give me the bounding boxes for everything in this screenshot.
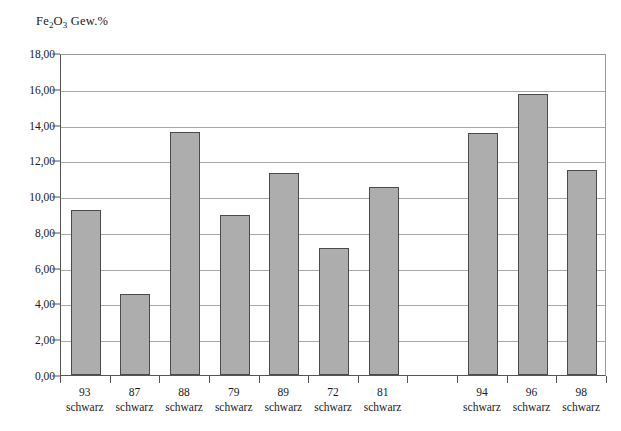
y-axis-tick-label: 0,00 xyxy=(0,370,55,382)
bar xyxy=(468,133,498,375)
y-axis-tick-mark xyxy=(52,89,60,90)
x-axis-label-name: schwarz xyxy=(347,400,419,415)
x-axis-tick-mark xyxy=(457,376,458,383)
x-axis-tick-label: 98schwarz xyxy=(545,385,617,414)
x-axis-label-number: 98 xyxy=(545,385,617,400)
y-axis-tick-mark xyxy=(52,54,60,55)
y-axis-tick-mark xyxy=(52,268,60,269)
bar xyxy=(319,248,349,375)
bar xyxy=(120,294,150,375)
y-axis-tick-label: 10,00 xyxy=(0,191,55,203)
x-axis-tick-mark xyxy=(507,376,508,383)
x-axis-tick-mark xyxy=(556,376,557,383)
y-axis-tick-label: 8,00 xyxy=(0,227,55,239)
y-axis-tick-label: 18,00 xyxy=(0,48,55,60)
y-axis-tick-mark xyxy=(52,304,60,305)
x-axis-tick-mark xyxy=(209,376,210,383)
x-axis-tick-mark xyxy=(358,376,359,383)
y-axis-tick-mark xyxy=(52,161,60,162)
y-axis-tick-mark xyxy=(52,376,60,377)
x-axis-tick-mark xyxy=(407,376,408,383)
x-axis-tick-mark xyxy=(308,376,309,383)
x-axis-tick-mark xyxy=(259,376,260,383)
x-axis-tick-mark xyxy=(606,376,607,383)
bar xyxy=(71,210,101,375)
y-axis-tick-label: 2,00 xyxy=(0,334,55,346)
page-title: Fe2O3 Gew.% xyxy=(36,14,108,30)
bar xyxy=(220,215,250,375)
bar-chart: Fe2O3 Gew.% 0,002,004,006,008,0010,0012,… xyxy=(0,0,621,431)
y-axis-tick-mark xyxy=(52,340,60,341)
title-mid: O xyxy=(54,14,63,28)
x-axis-label-number: 81 xyxy=(347,385,419,400)
gridline xyxy=(61,91,605,92)
x-axis-tick-mark xyxy=(60,376,61,383)
y-axis-tick-mark xyxy=(52,125,60,126)
y-axis-tick-mark xyxy=(52,197,60,198)
x-axis-tick-label: 81schwarz xyxy=(347,385,419,414)
title-post: Gew.% xyxy=(68,14,109,28)
x-axis-tick-mark xyxy=(159,376,160,383)
y-axis-tick-label: 4,00 xyxy=(0,298,55,310)
x-axis-label-name: schwarz xyxy=(545,400,617,415)
bar xyxy=(567,170,597,375)
y-axis-tick-label: 6,00 xyxy=(0,263,55,275)
bar xyxy=(369,187,399,375)
y-axis-tick-label: 14,00 xyxy=(0,120,55,132)
bar xyxy=(269,173,299,375)
y-axis-tick-label: 12,00 xyxy=(0,155,55,167)
y-axis-tick-label: 16,00 xyxy=(0,84,55,96)
y-axis-tick-mark xyxy=(52,232,60,233)
bar xyxy=(170,132,200,375)
x-axis-tick-mark xyxy=(110,376,111,383)
title-pre: Fe xyxy=(36,14,49,28)
bar xyxy=(518,94,548,375)
plot-area xyxy=(60,54,606,376)
